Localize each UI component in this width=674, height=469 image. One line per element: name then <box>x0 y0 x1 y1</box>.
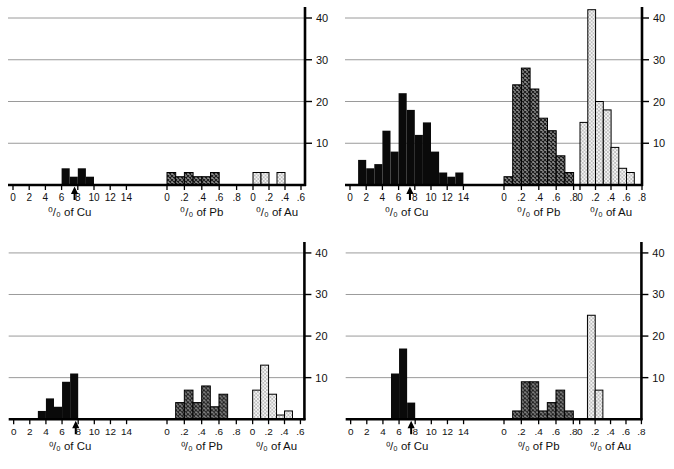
histogram-bar <box>595 390 603 419</box>
x-tick-label: 10 <box>426 426 438 437</box>
x-tick-label: 0 <box>11 426 17 437</box>
x-tick-label: .4 <box>198 192 207 203</box>
x-axis-caption: ⁰/₀ of Cu <box>48 206 92 218</box>
histogram-bar <box>431 152 439 185</box>
x-tick-label: .2 <box>180 192 189 203</box>
histogram-bar <box>455 173 463 186</box>
histogram-bar <box>62 382 70 419</box>
panel-top-left: 02468101214⁰/₀ of Cu0.2.4.6.8⁰/₀ of Pb0.… <box>0 0 337 235</box>
histogram-bar <box>580 122 588 185</box>
x-axis-Au: 0.2.4.6.8⁰/₀ of Au <box>577 185 646 218</box>
x-tick-label: .2 <box>591 192 600 203</box>
x-tick-label: .8 <box>637 426 646 437</box>
series-Au <box>580 10 634 185</box>
histogram-bar <box>587 315 595 419</box>
histogram-bar <box>167 173 176 186</box>
x-axis-caption: ⁰/₀ of Pb <box>517 206 560 218</box>
histogram-bar <box>382 131 390 185</box>
histogram-bar <box>399 349 407 420</box>
histogram-bar <box>253 173 261 186</box>
histogram-bar <box>521 68 530 185</box>
x-tick-label: 12 <box>442 426 454 437</box>
gridlines <box>8 18 305 143</box>
x-axis-Cu: 02468101214⁰/₀ of Cu <box>348 419 470 452</box>
x-tick-label: .4 <box>198 426 207 437</box>
y-tick-label: 20 <box>316 96 328 108</box>
y-tick-label: 40 <box>315 247 327 259</box>
gridlines <box>9 253 305 378</box>
x-tick-label: .6 <box>552 426 561 437</box>
x-axis-caption: ⁰/₀ of Au <box>590 206 632 218</box>
histogram-bar <box>548 131 557 185</box>
x-axis-Cu: 02468101214⁰/₀ of Cu <box>10 185 132 218</box>
x-tick-label: 4 <box>380 192 386 203</box>
y-tick-label: 30 <box>315 288 327 300</box>
x-tick-label: 6 <box>59 192 65 203</box>
histogram-panel-bottom-right: 02468101214⁰/₀ of Cu0.2.4.6.8⁰/₀ of Pb0.… <box>337 235 674 469</box>
x-tick-label: 0 <box>164 426 170 437</box>
x-tick-label: 4 <box>380 426 386 437</box>
histogram-panel-top-right: 02468101214⁰/₀ of Cu0.2.4.6.8⁰/₀ of Pb0.… <box>337 0 674 235</box>
series-Au <box>253 365 293 419</box>
series-Pb <box>513 382 574 419</box>
histogram-bar <box>62 168 70 185</box>
y-tick-label: 20 <box>315 330 327 342</box>
panel-bottom-right: 02468101214⁰/₀ of Cu0.2.4.6.8⁰/₀ of Pb0.… <box>337 235 674 469</box>
histogram-bar <box>54 407 62 419</box>
x-axis-Pb: 0.2.4.6.8⁰/₀ of Pb <box>164 419 241 452</box>
x-tick-label: .4 <box>606 426 615 437</box>
x-tick-label: .4 <box>535 192 544 203</box>
y-tick-label: 10 <box>653 137 665 149</box>
x-tick-label: .2 <box>265 192 274 203</box>
histogram-bar <box>261 173 269 186</box>
y-tick-label: 10 <box>315 372 327 384</box>
panel-top-right: 02468101214⁰/₀ of Cu0.2.4.6.8⁰/₀ of Pb0.… <box>337 0 674 235</box>
x-tick-label: 14 <box>458 192 470 203</box>
histogram-bar <box>547 403 556 420</box>
series-Cu <box>391 349 415 420</box>
y-tick-label: 40 <box>316 12 328 24</box>
histogram-bar <box>530 89 539 185</box>
y-tick-label: 40 <box>653 12 665 24</box>
x-tick-label: 10 <box>88 192 100 203</box>
x-axis-caption: ⁰/₀ of Pb <box>180 206 223 218</box>
y-tick-label: 10 <box>316 137 328 149</box>
x-tick-label: 12 <box>442 192 454 203</box>
x-tick-label: .6 <box>215 192 224 203</box>
histogram-bar <box>439 173 447 186</box>
x-tick-label: 12 <box>105 192 117 203</box>
y-tick-label: 10 <box>652 372 664 384</box>
y-tick-label: 20 <box>653 96 665 108</box>
x-tick-label: 0 <box>501 426 507 437</box>
series-Pb <box>167 173 219 186</box>
y-tick-label: 40 <box>652 247 664 259</box>
histogram-bar <box>210 407 219 419</box>
x-tick-label: 0 <box>164 192 170 203</box>
x-axis-caption: ⁰/₀ of Cu <box>385 206 429 218</box>
histogram-bar <box>253 390 261 419</box>
histogram-bar <box>211 173 220 186</box>
histogram-bar <box>530 382 539 419</box>
histogram-bar <box>391 152 399 185</box>
histogram-bar <box>358 160 366 185</box>
x-tick-label: .6 <box>296 426 305 437</box>
histogram-bar <box>611 147 619 185</box>
histogram-bar <box>627 173 635 186</box>
x-axis-Cu: 02468101214⁰/₀ of Cu <box>11 419 133 452</box>
x-tick-label: .8 <box>232 426 241 437</box>
y-tick-label: 30 <box>653 54 665 66</box>
x-tick-label: 0 <box>10 192 16 203</box>
x-tick-label: 6 <box>59 426 65 437</box>
histogram-bar <box>603 110 611 185</box>
histogram-panel-top-left: 02468101214⁰/₀ of Cu0.2.4.6.8⁰/₀ of Pb0.… <box>0 0 337 235</box>
histogram-bar <box>399 93 407 185</box>
gridlines <box>346 253 642 378</box>
histogram-bar <box>619 168 627 185</box>
x-tick-label: 6 <box>396 192 402 203</box>
histogram-bar <box>176 403 185 420</box>
x-axis-caption: ⁰/₀ of Au <box>256 440 297 452</box>
y-tick-label: 30 <box>316 54 328 66</box>
series-Cu <box>358 93 463 185</box>
x-tick-label: .2 <box>517 192 526 203</box>
x-tick-label: 4 <box>43 192 49 203</box>
